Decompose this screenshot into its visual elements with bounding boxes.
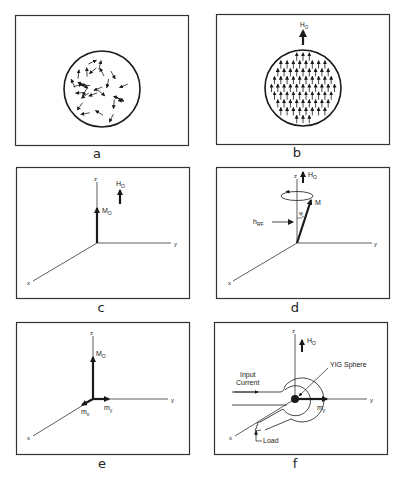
panel-label-e: e: [98, 456, 106, 471]
my-label: my: [317, 404, 326, 413]
load-pointer: [256, 430, 262, 441]
field-label-H0: HO: [308, 171, 317, 180]
panel-label-a: a: [93, 146, 101, 161]
panel-e: z y x MO mx my: [17, 323, 190, 455]
yig-sphere-pointer: [299, 368, 328, 396]
panel-d: z y x HO M φ hRF: [217, 168, 390, 299]
panel-label-b: b: [293, 145, 301, 160]
my-label: my: [104, 404, 113, 413]
y-axis-label: y: [374, 241, 377, 247]
field-label-H0: HO: [300, 21, 309, 30]
figure-canvas: HO z y x MO HO z y x HO M φ hRF: [0, 0, 402, 481]
panel-f: z y x HO Input Current YIG Sphere my Loa…: [215, 323, 388, 455]
panel-a: [16, 16, 189, 146]
magnetization-label-M: M: [315, 199, 321, 206]
x-axis-label: x: [27, 280, 30, 286]
load-line-lower: [265, 419, 291, 430]
current-label: Current: [236, 379, 259, 386]
panel-label-d: d: [291, 300, 299, 315]
panel-b: HO: [217, 15, 390, 145]
field-label-H0: HO: [307, 337, 316, 346]
input-line-upper: [232, 386, 285, 392]
x-axis-label: x: [27, 435, 30, 441]
angle-label-phi: φ: [299, 210, 303, 216]
y-axis-label: y: [174, 241, 177, 247]
x-axis-label: x: [229, 435, 232, 441]
y-axis-label: y: [370, 397, 373, 403]
panel-c: z y x MO HO: [17, 168, 190, 299]
load-label: Load: [263, 437, 279, 444]
mx-component-vector: [82, 399, 93, 405]
panel-d-frame: [217, 168, 390, 299]
panel-c-frame: [17, 168, 190, 299]
z-axis-label: z: [294, 173, 297, 179]
mx-label: mx: [81, 408, 90, 417]
z-axis-label: z: [90, 330, 93, 336]
x-axis-label: x: [228, 280, 231, 286]
yig-sphere-label: YIG Sphere: [330, 361, 367, 369]
magnetization-label-M0: MO: [96, 350, 106, 359]
z-axis-label: z: [292, 328, 295, 334]
x-axis: [33, 243, 97, 281]
panel-label-f: f: [293, 456, 298, 471]
magnetization-vector-M: [297, 200, 311, 243]
panel-a-frame: [16, 16, 189, 146]
sphere-random-moments: [64, 51, 140, 127]
x-axis: [233, 243, 297, 281]
y-axis-label: y: [171, 397, 174, 403]
x-axis: [235, 399, 295, 436]
angle-arc: [297, 216, 304, 218]
field-label-H0: HO: [116, 180, 125, 189]
magnetization-label-M0: MO: [102, 207, 112, 216]
rf-field-label: hRF: [253, 218, 264, 227]
panel-e-frame: [17, 323, 190, 455]
panel-label-c: c: [97, 300, 104, 315]
z-axis-label: z: [94, 176, 97, 182]
input-label: Input: [240, 371, 256, 379]
load-line-upper: [260, 409, 283, 422]
random-moment-arrows: [71, 60, 128, 122]
aligned-moment-arrows: [272, 53, 335, 123]
